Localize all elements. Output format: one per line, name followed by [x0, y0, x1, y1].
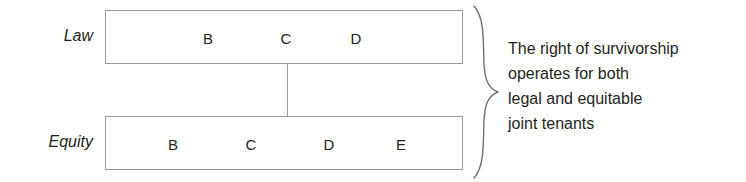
vertical-connector [287, 63, 288, 117]
tenant-letter-equity-2: D [319, 137, 339, 152]
tenant-letter-equity-3: E [391, 137, 411, 152]
tenant-letter-law-0: B [198, 31, 218, 46]
row-label-equity: Equity [0, 134, 93, 150]
tenancy-box-equity: B C D E [105, 116, 463, 170]
joint-tenancy-diagram: Law B C D Equity B C D E The right of su… [0, 0, 746, 182]
annotation-text-block: The right of survivorship operates for b… [508, 36, 743, 136]
tenant-letter-law-2: D [346, 31, 366, 46]
tenant-letter-law-1: C [276, 31, 296, 46]
right-curly-brace [468, 2, 504, 182]
annotation-line-3: joint tenants [508, 111, 743, 136]
tenancy-box-law: B C D [105, 10, 463, 64]
row-label-law: Law [0, 28, 93, 44]
tenant-letter-equity-0: B [163, 137, 183, 152]
annotation-line-0: The right of survivorship [508, 36, 743, 61]
annotation-line-1: operates for both [508, 61, 743, 86]
annotation-line-2: legal and equitable [508, 86, 743, 111]
tenant-letter-equity-1: C [241, 137, 261, 152]
